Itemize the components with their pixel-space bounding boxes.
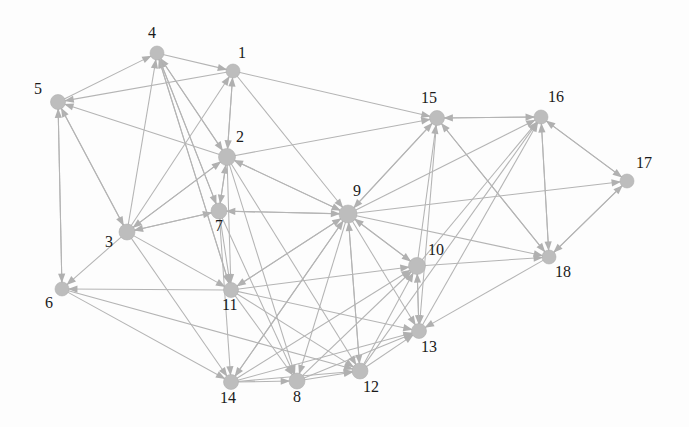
graph-edge [227, 162, 234, 284]
edge-line [420, 122, 437, 325]
edge-line [134, 212, 215, 231]
graph-edge [300, 271, 412, 378]
edge-arrowhead [425, 320, 435, 328]
edge-arrowhead [546, 121, 556, 130]
edge-arrowhead [611, 179, 621, 186]
edge-arrowhead [538, 123, 545, 133]
edge-line [553, 184, 624, 253]
edge-line [64, 104, 222, 156]
graph-edge [131, 234, 226, 287]
graph-edge [353, 179, 621, 213]
edge-arrowhead [58, 273, 65, 283]
graph-node-3[interactable] [119, 224, 135, 240]
edge-line [130, 236, 228, 377]
graph-edge [235, 332, 413, 381]
graph-edge [58, 106, 65, 283]
edge-line [68, 289, 227, 290]
graph-node-5[interactable] [51, 95, 66, 110]
edge-line [235, 74, 343, 208]
edge-arrowhead [215, 141, 223, 151]
edge-line [66, 290, 354, 369]
node-label-14: 14 [220, 390, 236, 406]
node-label-6: 6 [45, 295, 53, 311]
edge-arrowhead [64, 103, 74, 110]
graph-edge [352, 120, 535, 212]
edge-line [128, 59, 156, 228]
node-label-4: 4 [148, 25, 156, 41]
graph-edge [553, 184, 624, 253]
network-graph-canvas [0, 0, 689, 427]
graph-node-18[interactable] [542, 250, 556, 264]
node-label-13: 13 [421, 339, 437, 355]
edge-line [299, 219, 347, 375]
graph-node-8[interactable] [289, 373, 305, 389]
edge-arrowhead [526, 114, 536, 121]
graph-node-9[interactable] [339, 205, 357, 223]
node-label-1: 1 [238, 45, 246, 61]
graph-edge [538, 123, 548, 253]
edges-layer [55, 54, 625, 385]
edge-line [158, 57, 229, 284]
graph-edge [134, 212, 215, 232]
graph-edge [223, 210, 340, 217]
node-label-2: 2 [236, 129, 244, 145]
graph-node-15[interactable] [430, 111, 445, 126]
graph-node-1[interactable] [226, 64, 240, 78]
node-label-18: 18 [555, 264, 571, 280]
edge-arrowhead [298, 364, 305, 374]
edge-arrowhead [431, 124, 438, 134]
graph-node-2[interactable] [219, 149, 236, 166]
graph-node-4[interactable] [150, 46, 164, 60]
edge-line [223, 211, 340, 214]
edge-line [354, 219, 413, 264]
edge-line [65, 291, 225, 379]
graph-node-13[interactable] [412, 324, 427, 339]
graph-edge [546, 121, 624, 179]
graph-node-10[interactable] [409, 258, 426, 275]
graph-edge [346, 222, 360, 367]
edge-line [349, 222, 360, 367]
network-graph-figure: 123456789101112131415161718 [0, 0, 689, 427]
graph-edge [353, 215, 543, 257]
node-label-16: 16 [548, 89, 564, 105]
graph-node-12[interactable] [352, 363, 368, 379]
graph-edge [232, 117, 431, 156]
edge-arrowhead [226, 366, 233, 376]
graph-edge [235, 74, 343, 208]
graph-node-16[interactable] [534, 110, 548, 124]
graph-edge [130, 236, 228, 377]
edge-arrowhead [217, 64, 227, 71]
node-label-15: 15 [421, 90, 437, 106]
node-label-17: 17 [636, 155, 652, 171]
edge-line [353, 182, 621, 214]
graph-edge [64, 103, 222, 155]
edge-line [546, 121, 624, 179]
graph-edge [235, 291, 413, 331]
graph-edge [161, 54, 227, 71]
graph-edge [354, 219, 413, 264]
edge-line [237, 72, 431, 117]
node-label-9: 9 [353, 183, 361, 199]
edge-line [352, 120, 535, 212]
edge-line [441, 117, 535, 118]
node-label-7: 7 [215, 218, 223, 234]
node-label-12: 12 [363, 379, 379, 395]
edge-line [132, 160, 223, 228]
graph-edge [351, 123, 432, 211]
graph-edge [65, 291, 225, 379]
edge-line [60, 106, 124, 226]
edge-line [228, 161, 295, 374]
edge-line [353, 215, 543, 256]
edge-line [58, 106, 62, 283]
edge-line [351, 123, 432, 211]
graph-edge [128, 59, 158, 228]
graph-edge [132, 160, 223, 228]
edge-line [300, 271, 412, 378]
graph-node-14[interactable] [224, 375, 239, 390]
graph-node-6[interactable] [55, 282, 69, 296]
graph-edge [228, 161, 295, 374]
edge-line [541, 123, 548, 253]
edge-line [131, 234, 226, 287]
graph-node-17[interactable] [620, 174, 634, 188]
edge-arrowhead [533, 250, 543, 257]
